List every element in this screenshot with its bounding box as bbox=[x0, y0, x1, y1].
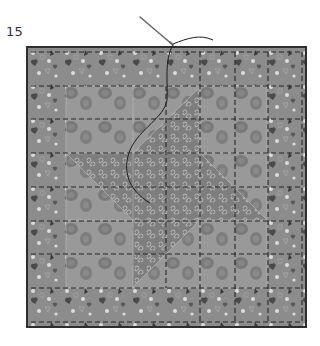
quilt-block bbox=[27, 47, 306, 327]
needle-icon bbox=[140, 17, 173, 45]
quilt-illustration bbox=[0, 0, 320, 346]
